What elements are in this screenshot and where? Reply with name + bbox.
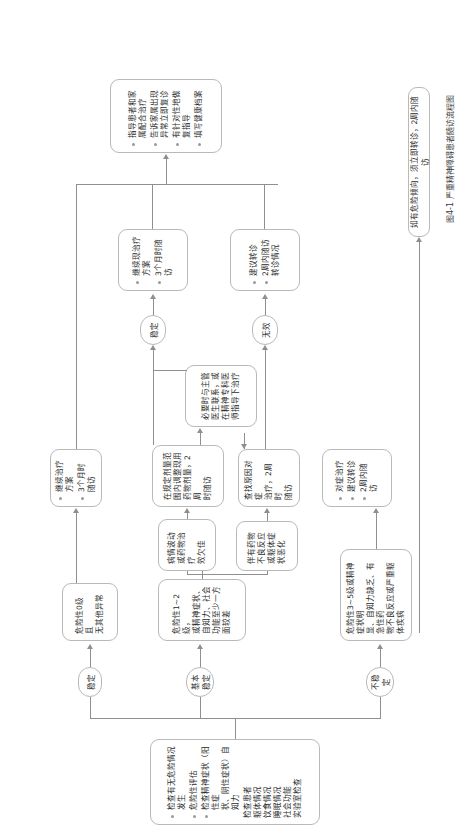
find-cause-text: 查找原因对症 治疗，2周时 随访 — [244, 456, 294, 500]
no-risk-text: 危险性0级且 无其他异常 — [75, 590, 105, 634]
edge-fan-to-fluct — [187, 571, 188, 575]
pill-stable: 稳定 — [78, 667, 102, 697]
edge-adjust-up — [153, 370, 187, 371]
arrow-basicstable-pill — [197, 644, 203, 649]
continue-left-item-0: 继续治疗方案 — [55, 456, 75, 500]
edge-unstable-to-symptomatic — [376, 513, 377, 549]
arrow-adjust-to-contact — [197, 428, 203, 433]
assessment-item-0: 检查有无危险情况发生 — [167, 746, 187, 818]
edge-spine-to-guidance — [166, 159, 167, 185]
continue-mid-item-0: 继续现治疗 方案 — [132, 236, 152, 284]
figure-caption: 图4-1 严重精神障碍患者随访流程图 — [444, 95, 455, 223]
symptomatic-item-0: 对症治疗 — [335, 456, 345, 500]
node-unstable-case: 危险性3~5级或精神症状明 显、自知力缺乏、有急性药 物不良反应或严重躯体疾病 — [340, 549, 412, 641]
edge-to-stable-pill — [90, 697, 91, 719]
arrow-to-stable2 — [150, 345, 156, 350]
edge-stable-pill-out — [90, 649, 91, 667]
pill-basic-stable: 基本稳定 — [186, 667, 214, 697]
edge-assessment-spine — [90, 718, 380, 719]
pill-unstable: 不稳定 — [366, 667, 394, 697]
fluctuation-text: 病情波动 或药物治疗 效欠佳 — [167, 526, 207, 564]
edge-adverse-to-findcause — [267, 513, 268, 521]
suggest-referral-item-0: 建议转诊 — [249, 236, 259, 284]
arrow-spine-to-guidance — [163, 154, 169, 159]
node-continue-plan-left: 继续治疗方案 3个月时随访 — [50, 449, 102, 507]
pill-stable-2: 稳定 — [140, 315, 166, 345]
arrow-adverse-to-findcause — [264, 508, 270, 513]
guidance-item-3: 填写健康档案 — [194, 86, 204, 146]
arrow-unstable-pill — [377, 644, 383, 649]
guidance-item-2: 有针对性地做 复指导 — [172, 86, 192, 146]
edge-suggest-referral-to-spine — [264, 185, 265, 229]
adverse-text: 伴有药物 不良反应 或躯体症 状恶化 — [247, 528, 287, 564]
arrow-to-ineffective — [262, 345, 268, 350]
node-adverse-case: 伴有药物 不良反应 或躯体症 状恶化 — [236, 521, 298, 571]
symptomatic-item-1: 建议转诊 — [347, 456, 357, 500]
edge-norisk-to-continue-left — [76, 513, 77, 583]
edge-to-unstable-pill — [380, 697, 381, 719]
node-assessment: 检查有无危险情况发生 危险性评估 检查精神症状（阳性症 状、阴性症状）自知力 检… — [150, 739, 320, 825]
edge-fan-to-adverse — [267, 571, 268, 575]
edge-continue-mid-to-spine — [152, 185, 153, 229]
edge-adjust-to-contact — [200, 433, 201, 445]
arrow-ineffective-out — [262, 294, 268, 299]
arrow-stable2-out — [150, 294, 156, 299]
node-fluctuation-case: 病情波动 或药物治疗 效欠佳 — [158, 519, 216, 571]
edge-to-basicstable-pill — [200, 697, 201, 719]
edge-basicstable-pill-out — [200, 649, 201, 667]
arrow-risk-note — [416, 237, 422, 242]
node-risk-note: 如有危险倾向，须立即转诊，2周内随访 — [408, 87, 430, 237]
edge-basicstable-fan-v — [187, 574, 267, 575]
edge-unstable-pill-out — [380, 649, 381, 667]
assessment-item-3: 检查患者 躯体情况 饮食情况 睡眠情况 社会功能 实验室检查 — [243, 746, 303, 818]
arrow-fluct-to-adjust — [184, 508, 190, 513]
assessment-item-2: 检查精神症状（阳性症 状、阴性症状）自知力 — [201, 746, 241, 818]
guidance-item-1: 告诉家属出现 异常立即复诊 — [150, 86, 170, 146]
continue-left-item-1: 3个月时随访 — [77, 456, 97, 500]
arrow-stable-pill — [87, 644, 93, 649]
arrow-findcause-to-contact — [241, 444, 247, 449]
contact-doctor-text: 必要时与主管 医生联系，或 在精神专科医 师指导下治疗 — [201, 372, 241, 420]
node-suggest-referral: 建议转诊 2周内随访 转诊情况 — [230, 229, 300, 291]
adjust-dose-text: 在规定剂量范 围内调整现用 药物剂量，2周 时随访 — [163, 452, 213, 500]
node-no-risk: 危险性0级且 无其他异常 — [62, 583, 118, 641]
arrow-norisk-to-continue-left — [73, 508, 79, 513]
edge-basicstable-fanout — [202, 571, 203, 579]
continue-mid-item-1: 3个月时随访 — [154, 236, 174, 284]
node-guidance: 指导患者和家 属配合治疗 告诉家属出现 异常立即复诊 有针对性地做 复指导 填写… — [110, 79, 222, 153]
node-symptomatic-referral: 对症治疗 建议转诊 2周内随访 — [322, 449, 392, 507]
node-continue-plan-mid: 继续现治疗 方案 3个月时随访 — [118, 229, 188, 291]
edge-findcause-to-ineff — [265, 349, 266, 449]
node-contact-doctor: 必要时与主管 医生联系，或 在精神专科医 师指导下治疗 — [185, 365, 257, 427]
node-adjust-dose: 在规定剂量范 围内调整现用 药物剂量，2周 时随访 — [152, 445, 224, 507]
rotated-page-wrapper: 检查有无危险情况发生 危险性评估 检查精神症状（阳性症 状、阴性症状）自知力 检… — [0, 0, 467, 833]
guidance-item-0: 指导患者和家 属配合治疗 — [128, 86, 148, 146]
unstable-text: 危险性3~5级或精神症状明 显、自知力缺乏、有急性药 物不良反应或严重躯体疾病 — [346, 556, 406, 634]
node-basic-stable-case: 危险性1~2级， 或精神症状、 自知力、社会 功能至少一方 面较差 — [158, 579, 246, 641]
edge-fluct-to-adjust — [187, 513, 188, 519]
flowchart-canvas: 检查有无危险情况发生 危险性评估 检查精神症状（阳性症 状、阴性症状）自知力 检… — [0, 0, 467, 833]
pill-ineffective: 无效 — [252, 315, 278, 345]
edge-continue-left-to-spine — [76, 185, 77, 449]
edge-ineffective-out — [265, 299, 266, 315]
symptomatic-item-2: 2周内随访 — [359, 456, 379, 500]
edge-adjust-to-stable2 — [153, 349, 154, 445]
arrow-unstable-to-symptomatic — [373, 508, 379, 513]
node-find-cause: 查找原因对症 治疗，2周时 随访 — [238, 449, 300, 507]
edge-risk-note-rail — [419, 241, 420, 633]
basic-stable-text: 危险性1~2级， 或精神症状、 自知力、社会 功能至少一方 面较差 — [172, 586, 232, 634]
assessment-item-1: 危险性评估 — [189, 746, 199, 818]
suggest-referral-item-1: 2周内随访 转诊情况 — [261, 236, 281, 284]
edge-collector-spine — [76, 184, 278, 185]
edge-stable2-out — [153, 299, 154, 315]
edge-assessment-out — [235, 719, 236, 739]
